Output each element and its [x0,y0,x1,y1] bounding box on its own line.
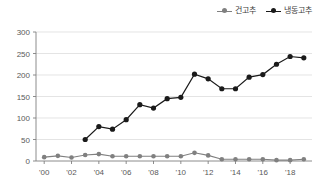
data-point-frozen-pepper [219,86,224,91]
x-axis-tick-label: '04 [94,168,105,177]
y-axis-tick-label: 200 [17,71,31,80]
x-axis-tick-label: '02 [66,168,77,177]
data-point-dried-pepper [247,157,252,162]
data-point-dried-pepper [288,158,293,163]
data-point-frozen-pepper [206,76,211,81]
x-axis-tick-label: '18 [285,168,296,177]
data-point-frozen-pepper [260,72,265,77]
data-point-dried-pepper [138,154,143,159]
data-point-dried-pepper [97,152,102,157]
x-axis-tick-label: '14 [230,168,241,177]
x-axis-tick-label: '16 [258,168,269,177]
data-point-dried-pepper [206,153,211,158]
chart-plot-area: 050100150200250300 '00'02'04'06'08'10'12… [0,0,318,190]
y-axis-tick-label: 250 [17,50,31,59]
data-point-frozen-pepper [192,72,197,77]
data-point-dried-pepper [151,154,156,159]
y-axis-tick-label: 50 [21,136,30,145]
data-point-dried-pepper [261,157,266,162]
data-point-dried-pepper [124,154,129,159]
data-point-dried-pepper [56,154,61,159]
data-point-dried-pepper [192,151,197,156]
data-point-frozen-pepper [137,102,142,107]
x-axis-tick-label: '06 [121,168,132,177]
data-point-frozen-pepper [83,137,88,142]
series-line-frozen-pepper [85,57,304,140]
data-point-dried-pepper [220,157,225,162]
x-axis-tick-label: '08 [148,168,159,177]
x-axis-tick-label: '10 [176,168,187,177]
data-point-dried-pepper [42,155,47,160]
gridlines [36,32,312,140]
x-axis-tick-label: '12 [203,168,214,177]
data-point-frozen-pepper [96,124,101,129]
data-point-frozen-pepper [274,62,279,67]
y-axis-tick-label: 150 [17,93,31,102]
y-axis-tick-label: 100 [17,114,31,123]
data-point-frozen-pepper [151,106,156,111]
data-point-frozen-pepper [247,75,252,80]
data-point-dried-pepper [83,153,88,158]
data-point-dried-pepper [274,158,279,163]
data-point-dried-pepper [302,157,307,162]
data-point-frozen-pepper [178,95,183,100]
y-axis-tick-label: 300 [17,28,31,37]
x-axis-tick-labels: '00'02'04'06'08'10'12'14'16'18 [39,168,296,177]
data-point-frozen-pepper [288,54,293,59]
data-point-frozen-pepper [110,127,115,132]
data-point-frozen-pepper [124,117,129,122]
data-point-frozen-pepper [301,55,306,60]
data-point-dried-pepper [179,154,184,159]
data-point-frozen-pepper [233,86,238,91]
data-point-dried-pepper [69,155,74,160]
chart-container: 건고추 냉동고추 050100150200250300 '00'02'04'06… [0,0,318,190]
data-point-dried-pepper [233,157,238,162]
data-point-dried-pepper [110,154,115,159]
y-axis-tick-label: 0 [26,157,31,166]
x-axis-tick-label: '00 [39,168,50,177]
data-point-frozen-pepper [165,96,170,101]
data-point-dried-pepper [165,154,170,159]
chart-series [42,54,307,163]
y-axis-tick-labels: 050100150200250300 [17,28,31,166]
